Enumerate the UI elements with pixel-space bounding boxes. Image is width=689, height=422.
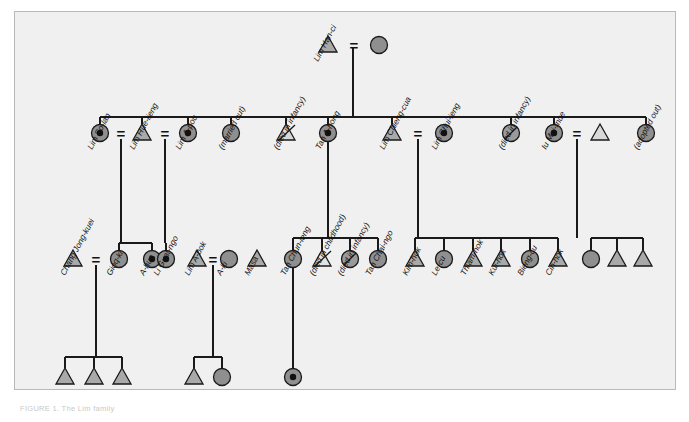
- label-married-out: (married out): [216, 104, 247, 151]
- marriage-equals: =: [414, 125, 423, 142]
- label-lim-hue-lieng: Lim Hue-lieng: [127, 101, 160, 151]
- label-tan-chai-ngo: Tan Chai-ngo: [363, 228, 395, 277]
- marriage-equals: =: [92, 251, 101, 268]
- figure-caption: FIGURE 1. The Lim family: [20, 404, 420, 415]
- label-adopted-out: (adopted out): [631, 102, 663, 150]
- person-symbols: [56, 36, 655, 386]
- marriage-equals: =: [573, 125, 582, 142]
- label-lim-a-bok: Lim A-bok: [182, 239, 209, 277]
- kinship-lines: [65, 47, 646, 368]
- label-lim-chui-ieng: Lim Chui-ieng: [429, 101, 462, 151]
- symbol-female[interactable]: [371, 37, 388, 54]
- symbol-male[interactable]: [591, 124, 609, 140]
- label-lim-chieng-cua: Lim Chieng-cua: [377, 95, 413, 151]
- label-died-in-infancy: (died in infancy): [496, 94, 532, 151]
- symbol-female[interactable]: [583, 251, 600, 268]
- marriage-equals: =: [350, 37, 359, 54]
- label-iu-mui-mue: Iu Mui-mue: [539, 109, 567, 151]
- symbol-male[interactable]: [634, 250, 652, 266]
- kinship-diagram: = = = = = = =: [0, 0, 689, 422]
- label-tan-chun-ieng: Tan Chun-ieng: [278, 224, 312, 277]
- symbol-female[interactable]: [214, 369, 231, 386]
- marriage-equals: =: [209, 251, 218, 268]
- label-thiam-hok: Thiam-hok: [458, 237, 486, 277]
- label-lim-han-ci: Lim Han-ci: [311, 22, 339, 63]
- person-labels: Lim Han-ci Lim So-lan Lim Hue-lieng Lim …: [58, 22, 663, 278]
- pedigree-svg: = = = = = = =: [0, 0, 689, 422]
- symbol-male[interactable]: [608, 250, 626, 266]
- marriage-equals: =: [117, 125, 126, 142]
- marriage-equals: =: [161, 125, 170, 142]
- symbol-male[interactable]: [85, 368, 103, 384]
- symbol-male[interactable]: [113, 368, 131, 384]
- symbol-male[interactable]: [185, 368, 203, 384]
- label-died-in-infancy: (died in infancy): [271, 94, 307, 151]
- symbol-male[interactable]: [56, 368, 74, 384]
- focal-dot: [290, 374, 296, 380]
